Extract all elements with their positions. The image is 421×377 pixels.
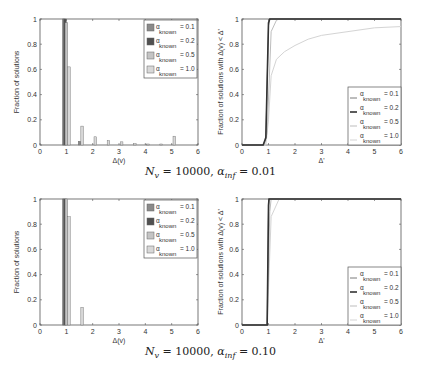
legend-swatch <box>147 24 154 31</box>
y-tick-label: 0.2 <box>229 296 239 303</box>
legend-value: = 0.2 <box>180 37 195 44</box>
y-tick-label: 1 <box>235 196 239 203</box>
y-tick-label: 0.8 <box>27 221 37 228</box>
y-tick-label: 0.4 <box>229 91 239 98</box>
bar <box>173 136 176 145</box>
legend-sub: known <box>363 304 380 310</box>
legend-value: = 0.5 <box>384 118 399 125</box>
x-tick-label: 4 <box>143 328 147 335</box>
legend-sub: known <box>159 57 176 63</box>
y-tick-label: 0.4 <box>27 91 37 98</box>
legend-sub: known <box>363 276 380 282</box>
chart-top-left: 012345600.20.40.60.81Δ(v)Fraction of sol… <box>0 0 210 169</box>
x-axis-label: Δ(v) <box>113 157 126 165</box>
legend-value: = 1.0 <box>384 312 399 319</box>
y-tick-label: 0 <box>33 142 37 149</box>
x-tick-label: 3 <box>320 148 324 155</box>
x-tick-label: 5 <box>373 328 377 335</box>
x-tick-label: 0 <box>240 148 244 155</box>
y-tick-label: 1 <box>33 16 37 23</box>
legend: αknown= 0.1αknown= 0.2αknown= 0.5αknown=… <box>144 200 197 258</box>
legend-swatch <box>147 52 154 59</box>
y-axis-label: Fraction of solutions <box>13 50 20 113</box>
y-tick-label: 0.4 <box>229 271 239 278</box>
bar <box>160 144 163 145</box>
x-tick-label: 4 <box>143 148 147 155</box>
legend-sub: known <box>363 318 380 324</box>
y-tick-label: 1 <box>33 196 37 203</box>
legend-swatch <box>147 204 154 211</box>
legend-sub: known <box>159 223 176 229</box>
y-tick-label: 0.2 <box>27 116 37 123</box>
y-tick-label: 0.8 <box>229 221 239 228</box>
y-tick-label: 0.6 <box>229 66 239 73</box>
y-tick-label: 0 <box>235 142 239 149</box>
y-tick-label: 0 <box>235 322 239 329</box>
legend-value: = 0.2 <box>180 217 195 224</box>
legend-value: = 0.1 <box>384 90 399 97</box>
x-axis-label: Δ(v) <box>113 337 126 345</box>
legend-swatch <box>147 218 154 225</box>
y-tick-label: 0.2 <box>229 116 239 123</box>
bar <box>120 142 123 145</box>
bar <box>68 217 71 325</box>
x-tick-label: 5 <box>170 328 174 335</box>
x-tick-label: 3 <box>320 328 324 335</box>
y-tick-label: 0.4 <box>27 271 37 278</box>
x-tick-label: 6 <box>399 328 403 335</box>
legend-value: = 0.1 <box>180 203 195 210</box>
x-tick-label: 1 <box>267 328 271 335</box>
x-tick-label: 2 <box>91 148 95 155</box>
legend-sub: known <box>363 110 380 116</box>
x-axis-label: Δ' <box>318 337 324 344</box>
caption-top: Nv = 10000, αinf = 0.01 <box>0 165 421 180</box>
legend-sub: known <box>159 237 176 243</box>
y-axis-label: Fraction of solutions <box>13 230 20 293</box>
bar <box>147 144 150 145</box>
legend-value: = 0.2 <box>384 284 399 291</box>
histogram-bottom: 012345600.20.40.60.81Δ(v)Fraction of sol… <box>0 180 210 345</box>
legend-value: = 0.2 <box>384 104 399 111</box>
bar <box>65 199 68 325</box>
legend-sub: known <box>363 138 380 144</box>
x-tick-label: 0 <box>38 328 42 335</box>
legend-value: = 1.0 <box>180 65 195 72</box>
cdf-top: 012345600.20.40.60.81Δ'Fraction of solut… <box>210 0 421 165</box>
bar <box>81 307 84 325</box>
bar <box>107 141 110 145</box>
x-tick-label: 5 <box>170 148 174 155</box>
legend-sub: known <box>363 124 380 130</box>
caption-bottom: Nv = 10000, αinf = 0.10 <box>0 345 421 360</box>
chart-bottom-right: 012345600.20.40.60.81Δ'Fraction of solut… <box>210 180 421 349</box>
bar <box>65 23 68 145</box>
x-tick-label: 1 <box>64 328 68 335</box>
y-tick-label: 0.6 <box>27 246 37 253</box>
x-tick-label: 1 <box>267 148 271 155</box>
legend: αknown= 0.1αknown= 0.2αknown= 0.5αknown=… <box>144 20 197 78</box>
legend-sub: known <box>159 251 176 257</box>
y-tick-label: 0.8 <box>27 41 37 48</box>
x-tick-label: 6 <box>399 148 403 155</box>
bar <box>68 67 71 145</box>
histogram-top: 012345600.20.40.60.81Δ(v)Fraction of sol… <box>0 0 210 165</box>
x-tick-label: 0 <box>38 148 42 155</box>
x-tick-label: 2 <box>91 328 95 335</box>
x-tick-label: 3 <box>117 148 121 155</box>
x-tick-label: 0 <box>240 328 244 335</box>
bar <box>94 137 97 145</box>
legend-value: = 1.0 <box>384 132 399 139</box>
x-tick-label: 4 <box>346 328 350 335</box>
legend-value: = 0.5 <box>180 231 195 238</box>
y-axis-label: Fraction of solutions with Δ(v) < Δ' <box>217 29 225 134</box>
x-tick-label: 2 <box>293 328 297 335</box>
x-tick-label: 6 <box>196 148 200 155</box>
bar <box>78 141 81 145</box>
chart-bottom-left: 012345600.20.40.60.81Δ(v)Fraction of sol… <box>0 180 210 349</box>
y-tick-label: 0.8 <box>229 41 239 48</box>
legend-sub: known <box>159 209 176 215</box>
chart-top-right: 012345600.20.40.60.81Δ'Fraction of solut… <box>210 0 421 169</box>
x-tick-label: 2 <box>293 148 297 155</box>
legend: αknown= 0.1αknown= 0.2αknown= 0.5αknown=… <box>348 87 401 145</box>
x-axis-label: Δ' <box>318 157 324 164</box>
legend-sub: known <box>159 29 176 35</box>
